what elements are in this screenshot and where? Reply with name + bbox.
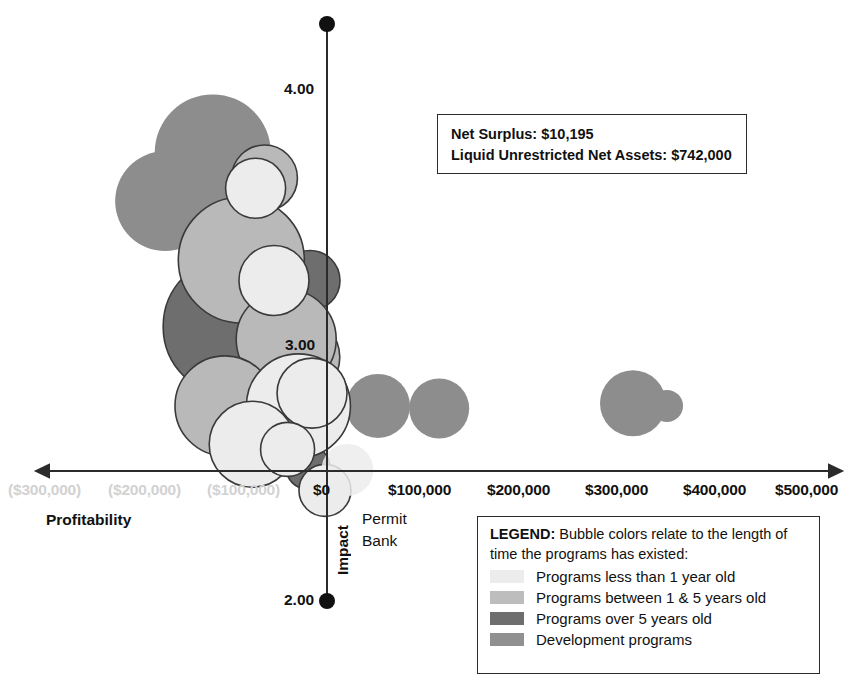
net-surplus-info-box: Net Surplus: $10,195 Liquid Unrestricted… (437, 114, 747, 174)
x-tick-label-neg100000: ($100,000) (207, 481, 280, 499)
x-axis-title: Profitability (46, 511, 131, 529)
x-tick-label-200000: $200,000 (487, 481, 550, 499)
bubble-point (346, 374, 410, 438)
y-tick-label-4: 4.00 (284, 80, 314, 98)
legend-swatch-icon (490, 591, 524, 604)
x-tick-label-0: $0 (313, 481, 330, 499)
x-tick-label-500000: $500,000 (775, 481, 838, 499)
bubble-point (226, 158, 286, 218)
legend-title: LEGEND: (490, 526, 555, 542)
y-axis-title: Impact (334, 525, 352, 575)
legend-item: Programs over 5 years old (490, 610, 807, 627)
legend-item-label: Programs over 5 years old (536, 610, 712, 627)
liquid-net-assets-line: Liquid Unrestricted Net Assets: $742,000 (451, 145, 733, 166)
x-tick-label-300000: $300,000 (585, 481, 648, 499)
bubble-point (239, 245, 309, 315)
bubble-point (651, 390, 683, 422)
y-tick-label-2: 2.00 (284, 591, 314, 609)
permit-bank-label-line1: Permit (362, 509, 407, 529)
legend-box: LEGEND: Bubble colors relate to the leng… (477, 516, 820, 674)
legend-item-label: Programs less than 1 year old (536, 568, 735, 585)
permit-bank-label-line2: Bank (362, 531, 397, 551)
legend-item-label: Programs between 1 & 5 years old (536, 589, 766, 606)
bubble-point (261, 422, 315, 476)
bubble-point (409, 378, 469, 438)
legend-header: LEGEND: Bubble colors relate to the leng… (490, 525, 807, 564)
legend-swatch-icon (490, 633, 524, 646)
x-tick-label-400000: $400,000 (683, 481, 746, 499)
legend-item: Development programs (490, 631, 807, 648)
x-tick-label-neg300000: ($300,000) (8, 481, 81, 499)
y-tick-label-3: 3.00 (285, 336, 315, 354)
legend-items-list: Programs less than 1 year oldPrograms be… (490, 568, 807, 648)
legend-item: Programs between 1 & 5 years old (490, 589, 807, 606)
legend-item-label: Development programs (536, 631, 692, 648)
bubble-point (277, 358, 347, 428)
bubble-chart-page: ($300,000) ($200,000) ($100,000) $0 $100… (0, 0, 849, 699)
legend-swatch-icon (490, 570, 524, 583)
x-tick-label-neg200000: ($200,000) (108, 481, 181, 499)
y-axis-bottom-cap (319, 593, 335, 609)
net-surplus-line: Net Surplus: $10,195 (451, 124, 733, 145)
x-tick-label-100000: $100,000 (388, 481, 451, 499)
legend-swatch-icon (490, 612, 524, 625)
y-axis-top-cap (319, 16, 335, 32)
legend-item: Programs less than 1 year old (490, 568, 807, 585)
